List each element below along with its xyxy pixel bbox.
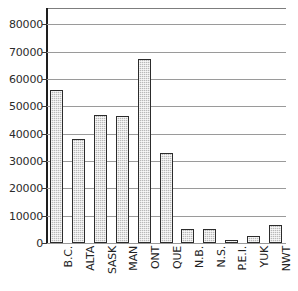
y-axis-tick-label: 30000 xyxy=(9,155,43,168)
x-axis-tick-label: ALTA xyxy=(84,246,97,271)
y-axis-tick xyxy=(42,216,47,217)
y-axis-tick-label: 50000 xyxy=(9,100,43,113)
bar-yuk xyxy=(247,236,260,243)
y-axis-line xyxy=(46,8,48,244)
x-axis-tick-label: NWT xyxy=(280,246,293,271)
gridline xyxy=(46,106,286,107)
y-axis-tick xyxy=(42,106,47,107)
gridline xyxy=(46,134,286,135)
y-axis-tick xyxy=(42,188,47,189)
y-axis-tick xyxy=(42,243,47,244)
x-axis-tick-label: SASK xyxy=(106,246,119,274)
y-axis-tick-label: 20000 xyxy=(9,182,43,195)
y-axis-tick-label: 60000 xyxy=(9,73,43,86)
x-axis-tick-label: ONT xyxy=(149,246,162,269)
x-axis-tick-labels: B.C.ALTASASKMANONTQUEN.B.N.S.P.E.I.YUKNW… xyxy=(46,246,286,291)
y-axis-tick-labels: 0100002000030000400005000060000700008000… xyxy=(0,0,43,291)
bar-ns xyxy=(203,229,216,243)
gridline xyxy=(46,52,286,53)
y-axis-tick-label: 80000 xyxy=(9,18,43,31)
plot-top-border xyxy=(46,8,286,9)
bar-nb xyxy=(181,229,194,243)
y-axis-tick-label: 10000 xyxy=(9,209,43,222)
y-axis-tick xyxy=(42,161,47,162)
bar-sask xyxy=(94,115,107,243)
y-axis-tick xyxy=(42,79,47,80)
bar-nwt xyxy=(269,225,282,243)
y-axis-tick xyxy=(42,134,47,135)
bar-que xyxy=(160,153,173,243)
x-axis-line xyxy=(46,243,286,244)
bar-pei xyxy=(225,240,238,243)
gridline xyxy=(46,79,286,80)
gridline xyxy=(46,24,286,25)
plot-area xyxy=(46,8,286,244)
bar-bc xyxy=(50,90,63,243)
x-axis-tick-label: N.S. xyxy=(215,246,228,267)
x-axis-tick-label: B.C. xyxy=(62,246,75,267)
bar-chart: 0100002000030000400005000060000700008000… xyxy=(0,0,298,291)
y-axis-tick xyxy=(42,52,47,53)
bar-alta xyxy=(72,139,85,243)
y-axis-tick-label: 70000 xyxy=(9,45,43,58)
x-axis-tick-label: MAN xyxy=(127,246,140,271)
y-axis-tick-label: 40000 xyxy=(9,127,43,140)
y-axis-tick xyxy=(42,24,47,25)
x-axis-tick-label: YUK xyxy=(258,246,271,267)
x-axis-tick-label: N.B. xyxy=(193,246,206,268)
bar-man xyxy=(116,116,129,243)
bar-ont xyxy=(138,59,151,243)
x-axis-tick-label: QUE xyxy=(171,246,184,269)
x-axis-tick-label: P.E.I. xyxy=(236,246,249,270)
